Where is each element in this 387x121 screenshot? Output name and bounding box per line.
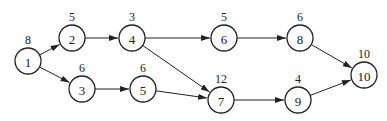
node-4: 43 [119,10,145,51]
edge-1-to-2 [40,44,60,54]
node-label: 7 [218,94,225,109]
node-weight-label: 6 [140,61,146,75]
edge-1-to-3 [40,67,70,83]
node-weight-label: 6 [297,10,303,24]
node-label: 10 [358,69,371,84]
node-label: 4 [129,32,136,47]
nodes-layer: 18253643566571286941010 [15,10,377,113]
node-2: 25 [59,10,85,51]
node-weight-label: 8 [25,33,31,47]
diagram-svg: 18253643566571286941010 [0,0,387,121]
node-weight-label: 3 [129,10,135,24]
edge-5-to-7 [156,91,207,98]
edge-9-to-10 [310,80,351,95]
network-diagram: 18253643566571286941010 [0,0,387,121]
node-label: 6 [221,32,228,47]
node-weight-label: 5 [221,10,227,24]
node-1: 18 [15,33,41,74]
node-label: 3 [79,83,86,98]
node-weight-label: 4 [295,72,301,86]
node-label: 2 [69,32,76,47]
node-10: 1010 [351,47,377,88]
node-9: 94 [285,72,311,113]
node-weight-label: 5 [69,10,75,24]
node-label: 8 [297,32,304,47]
node-3: 36 [69,61,95,102]
node-weight-label: 12 [215,72,227,86]
node-label: 9 [295,94,302,109]
node-7: 712 [208,72,234,113]
edge-8-to-10 [311,45,352,68]
node-8: 86 [287,10,313,51]
node-5: 56 [130,61,156,102]
node-6: 65 [211,10,237,51]
node-weight-label: 6 [79,61,85,75]
node-weight-label: 10 [358,47,370,61]
node-label: 5 [140,83,147,98]
node-label: 1 [25,55,32,70]
